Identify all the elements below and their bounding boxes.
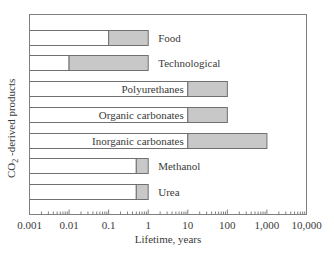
bars-group: FoodTechnologicalPolyurethanesOrganic ca… <box>30 31 267 200</box>
x-tick-label: 1 <box>145 219 151 231</box>
x-axis-tick-labels: 0.0010.010.11101001,00010,000 <box>17 219 322 231</box>
x-tick-label: 10,000 <box>291 219 322 231</box>
bar-label: Organic carbonates <box>99 109 184 121</box>
bar-range <box>136 185 148 200</box>
bar-range <box>188 134 267 149</box>
x-tick-label: 0.1 <box>102 219 116 231</box>
bar-row: Polyurethanes <box>30 82 228 97</box>
bar-row: Organic carbonates <box>30 108 228 123</box>
bar-leadin <box>30 56 70 71</box>
x-tick-label: 10 <box>182 219 194 231</box>
bar-row: Methanol <box>30 159 201 174</box>
bar-leadin <box>30 31 109 46</box>
x-tick-label: 100 <box>219 219 236 231</box>
bar-leadin <box>30 159 137 174</box>
bar-label: Food <box>158 32 181 44</box>
bar-range <box>136 159 148 174</box>
chart: FoodTechnologicalPolyurethanesOrganic ca… <box>0 0 334 258</box>
x-tick-label: 0.001 <box>17 219 42 231</box>
x-axis-label: Lifetime, years <box>135 233 202 245</box>
bar-leadin <box>30 185 137 200</box>
bar-range <box>188 108 228 123</box>
bar-row: Urea <box>30 185 180 200</box>
bar-label: Urea <box>158 186 179 198</box>
bar-row: Inorganic carbonates <box>30 134 267 149</box>
bar-range <box>69 56 148 71</box>
x-tick-label: 1,000 <box>255 219 280 231</box>
y-axis-label: CO2 -derived products <box>5 79 20 178</box>
bar-row: Technological <box>30 56 221 71</box>
bar-label: Methanol <box>158 160 200 172</box>
bar-label: Technological <box>158 57 220 69</box>
x-axis-ticks <box>30 210 305 215</box>
bar-label: Inorganic carbonates <box>92 135 184 147</box>
x-tick-label: 0.01 <box>59 219 78 231</box>
bar-range <box>109 31 149 46</box>
bar-range <box>188 82 228 97</box>
bar-row: Food <box>30 31 182 46</box>
bar-label: Polyurethanes <box>121 83 183 95</box>
